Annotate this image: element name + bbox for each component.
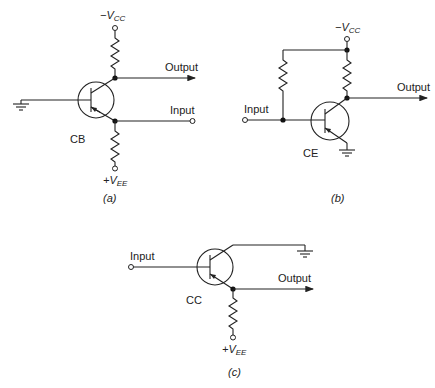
input-terminal-b [243,118,248,123]
emitter-resistor-c [229,289,237,335]
emitter-arrow-head-b [325,128,331,133]
input-terminal-a [190,119,195,124]
transistor-configurations-diagram: −VCC Output Input CB +VEE (a) [0,0,435,388]
vcc-terminal-a [113,26,118,31]
panel-a-common-base: −VCC Output Input CB +VEE (a) [13,9,198,204]
ground-icon-a [13,100,29,110]
emitter-arrow-head-c [210,274,216,279]
collector-resistor-a [111,31,119,79]
vcc-terminal-b [345,37,350,42]
ground-icon-b [339,150,355,156]
vee-label-c: +VEE [222,343,247,357]
vcc-label-a: −VCC [100,9,126,23]
config-label-b: CE [303,147,318,159]
collector-lead-c [210,245,233,260]
emitter-resistor-a [111,121,119,166]
vee-label-a: +VEE [103,174,128,188]
caption-b: (b) [331,192,345,204]
vcc-label-b: −VCC [335,21,361,35]
caption-c: (c) [228,366,241,378]
input-label-b: Input [244,103,268,115]
transistor-b [311,102,349,140]
output-label-b: Output [397,81,430,93]
input-label-c: Input [130,250,154,262]
bias-resistor-b [279,50,287,120]
output-label-a: Output [165,61,198,73]
ground-icon-c [297,251,313,257]
output-label-c: Output [278,272,311,284]
input-terminal-c [129,265,134,270]
emitter-arrow-head-a [91,107,97,112]
panel-c-common-collector: Input Output CC +VEE (c) [129,245,314,378]
vee-terminal-a [113,166,118,171]
vee-terminal-c [231,335,236,340]
config-label-c: CC [186,294,202,306]
base-node-b [280,117,285,122]
panel-b-common-emitter: −VCC Output Input CE (b) [243,21,431,204]
collector-lead-b [325,98,347,114]
caption-a: (a) [103,192,117,204]
input-label-a: Input [170,104,194,116]
config-label-a: CB [70,133,85,145]
collector-resistor-b [343,50,351,98]
